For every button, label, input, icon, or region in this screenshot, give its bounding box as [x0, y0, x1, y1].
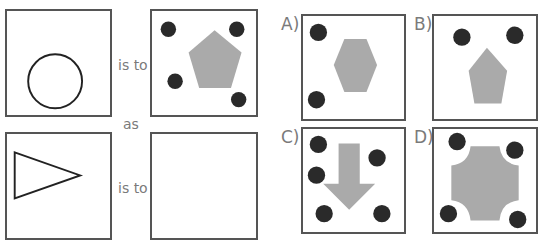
option-b-label: B) — [414, 16, 432, 33]
is-to-label-2: is to — [118, 181, 148, 195]
option-c-box[interactable] — [301, 127, 406, 234]
option-c-label: C) — [281, 129, 300, 146]
hexagon-with-dots-icon — [303, 16, 404, 119]
answer-box-empty — [150, 132, 258, 240]
option-b-box[interactable] — [432, 14, 538, 121]
pentagon-with-dots-icon — [152, 11, 256, 115]
pentagon-with-dots-icon — [434, 16, 536, 119]
is-to-label-1: is to — [118, 58, 148, 72]
down-arrow-with-dots-icon — [303, 129, 404, 232]
option-a-label: A) — [281, 16, 299, 33]
circle-outline-icon — [7, 11, 110, 115]
premise-box-circle — [5, 9, 112, 117]
premise-box-pentagon — [150, 9, 258, 117]
option-d-box[interactable] — [432, 127, 538, 234]
option-d-label: D) — [414, 129, 434, 146]
option-a-box[interactable] — [301, 14, 406, 121]
triangle-outline-icon — [7, 134, 110, 238]
premise-box-triangle — [5, 132, 112, 240]
as-label: as — [123, 117, 139, 131]
concave-octagon-with-dots-icon — [434, 129, 536, 232]
